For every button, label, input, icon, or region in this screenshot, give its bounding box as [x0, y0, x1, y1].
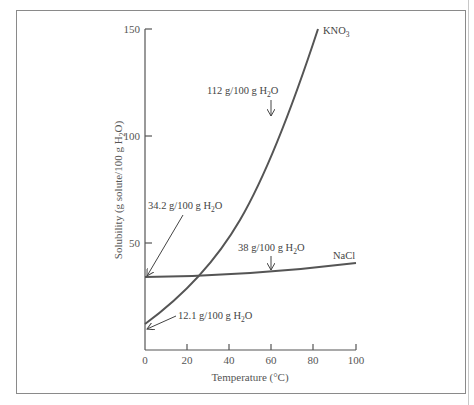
solubility-chart: 150 100 50 0 20 40 60 80 100 Temperature… [0, 0, 474, 405]
y-tick-50: 50 [129, 237, 141, 249]
x-axis-title: Temperature (°C) [211, 371, 289, 384]
x-axis: 0 20 40 60 80 100 Temperature (°C) [142, 344, 365, 384]
x-tick-20: 20 [182, 354, 194, 366]
nacl-label: NaCl [333, 250, 355, 261]
annotation-34-2: 34.2 g/100 g H2O [148, 200, 223, 214]
arrow-34-2 [147, 215, 183, 276]
x-tick-0: 0 [142, 354, 148, 366]
annotation-12-1: 12.1 g/100 g H2O [178, 310, 253, 324]
y-tick-150: 150 [124, 23, 141, 35]
kno3-label: KNO3 [323, 25, 350, 39]
annotation-38: 38 g/100 g H2O [238, 242, 305, 256]
x-tick-80: 80 [308, 354, 320, 366]
nacl-line [145, 263, 356, 277]
x-tick-40: 40 [224, 354, 236, 366]
x-tick-100: 100 [348, 354, 365, 366]
arrow-12-1 [147, 316, 176, 329]
x-tick-60: 60 [266, 354, 278, 366]
y-axis: 150 100 50 [124, 23, 153, 350]
annotation-112: 112 g/100 g H2O [207, 85, 279, 99]
kno3-line [145, 29, 318, 324]
